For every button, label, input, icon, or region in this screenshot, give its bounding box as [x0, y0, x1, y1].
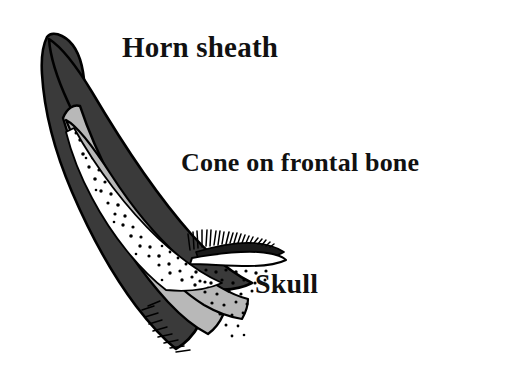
label-horn-sheath: Horn sheath	[122, 33, 278, 62]
horn-anatomy-figure: Horn sheath Cone on frontal bone Skull	[0, 0, 519, 376]
label-skull: Skull	[255, 270, 318, 298]
label-cone-on-frontal-bone: Cone on frontal bone	[181, 150, 419, 176]
